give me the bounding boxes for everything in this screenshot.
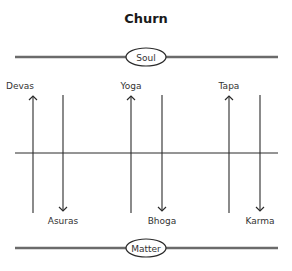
diagram-title: Churn <box>124 11 168 26</box>
up-label: Yoga <box>119 81 141 91</box>
matter-bar: Matter <box>15 239 278 257</box>
down-label: Karma <box>245 216 274 226</box>
matter-label: Matter <box>131 244 161 254</box>
down-label: Asuras <box>48 216 79 226</box>
down-label: Bhoga <box>148 216 177 226</box>
up-label: Devas <box>6 81 34 91</box>
soul-bar: Soul <box>15 48 278 66</box>
up-label: Tapa <box>218 81 240 91</box>
churn-diagram: Churn Soul Devas Asuras Yoga Bhoga Tapa … <box>0 0 292 271</box>
soul-label: Soul <box>136 53 155 63</box>
